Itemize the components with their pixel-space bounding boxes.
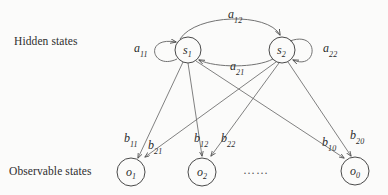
emission-label-b10: b10 <box>322 136 336 148</box>
self-loop-s1-a11 <box>155 41 177 61</box>
emission-edges <box>138 61 351 158</box>
hidden-states-row-label: Hidden states <box>14 35 78 47</box>
node-label-o0: o0 <box>350 164 360 180</box>
emission-label-b21: b21 <box>148 139 162 151</box>
transition-label-a22: a22 <box>323 42 337 54</box>
transition-label-a12: a12 <box>228 8 242 20</box>
transition-label-a21: a21 <box>230 60 244 72</box>
edge-s2-o1 <box>145 62 276 157</box>
node-label-o1: o1 <box>126 165 136 181</box>
node-label-s1: s1 <box>183 43 192 59</box>
emission-label-b22: b22 <box>221 132 235 144</box>
emission-label-b12: b12 <box>194 132 208 144</box>
observable-states-ellipsis: …… <box>243 163 269 178</box>
emission-label-b11: b11 <box>124 132 138 144</box>
self-loop-s2-a22 <box>290 39 312 62</box>
observable-states-row-label: Observable states <box>9 165 92 177</box>
node-label-s2: s2 <box>277 43 286 59</box>
transition-label-a11: a11 <box>134 42 148 54</box>
hmm-diagram: s1 s2 o1 o2 o0 Hidden states Observable … <box>0 0 388 195</box>
node-label-o2: o2 <box>197 165 207 181</box>
edge-s1-s2-a12 <box>180 19 280 39</box>
emission-label-b20: b20 <box>350 129 364 141</box>
